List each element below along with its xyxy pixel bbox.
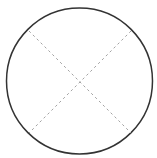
diagram-canvas [0,0,157,158]
diagram-background [0,0,157,158]
circle-dashed-x-diagram [0,0,157,158]
